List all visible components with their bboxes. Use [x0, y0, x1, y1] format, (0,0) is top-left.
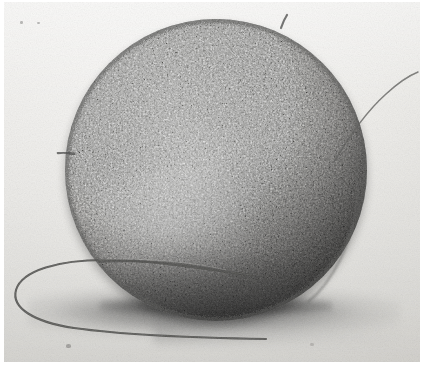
cell-rim — [65, 19, 367, 321]
micrograph-plate — [4, 2, 420, 362]
cell-body — [65, 19, 367, 321]
dust-speck — [20, 21, 23, 24]
dust-speck — [310, 343, 314, 346]
dust-speck — [37, 22, 40, 24]
micrograph-figure — [0, 0, 424, 370]
dust-speck — [188, 246, 191, 249]
shadow-streak — [154, 318, 404, 344]
dust-speck — [66, 344, 71, 348]
